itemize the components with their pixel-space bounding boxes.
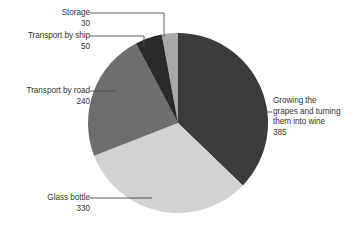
label-storage-name: Storage: [62, 8, 90, 17]
label-glass-bottle-name: Glass bottle: [47, 193, 90, 202]
pie-slices: [88, 33, 268, 213]
pie-chart: Storage 30 Transport by ship 50 Transpor…: [0, 0, 363, 238]
label-growing-grapes-line1: Growing the: [273, 96, 317, 105]
label-transport-by-ship-name: Transport by ship: [28, 31, 90, 40]
label-glass-bottle: Glass bottle 330: [47, 193, 90, 214]
label-growing-grapes-value: 385: [273, 128, 340, 139]
label-glass-bottle-value: 330: [47, 204, 90, 215]
label-transport-by-road: Transport by road 240: [27, 86, 90, 107]
leader-line-storage: [90, 13, 164, 37]
label-storage-value: 30: [62, 19, 90, 30]
label-transport-by-ship-value: 50: [28, 42, 90, 53]
label-transport-by-ship: Transport by ship 50: [28, 31, 90, 52]
label-transport-by-road-value: 240: [27, 97, 90, 108]
label-transport-by-road-name: Transport by road: [27, 86, 90, 95]
label-growing-grapes-line2: grapes and turning: [273, 107, 340, 118]
label-storage: Storage 30: [62, 8, 90, 29]
label-growing-grapes: Growing the grapes and turning them into…: [273, 96, 340, 138]
label-growing-grapes-line3: them into wine: [273, 117, 340, 128]
